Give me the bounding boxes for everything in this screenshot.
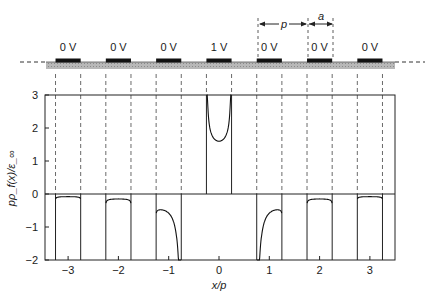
electrode — [106, 59, 131, 63]
x-tick-label: 0 — [216, 264, 222, 276]
y-tick-label: 3 — [32, 89, 38, 101]
electrode-voltage-label: 0 V — [160, 41, 177, 53]
arrowhead-icon — [259, 22, 265, 27]
electrode-voltage-label: 0 V — [311, 41, 328, 53]
arrowhead-icon — [309, 22, 315, 27]
electrode-voltage-label: 0 V — [362, 41, 379, 53]
electrode — [56, 59, 81, 63]
x-axis-label: x/p — [211, 279, 227, 291]
y-tick-label: 0 — [32, 188, 38, 200]
electrode — [307, 59, 332, 63]
plot-frame — [45, 95, 395, 260]
arrowhead-icon — [301, 22, 307, 27]
arrowhead-icon — [327, 22, 333, 27]
substrate — [46, 62, 395, 69]
width-label: a — [318, 10, 324, 22]
charge-density-figure: 0 V0 V0 V1 V0 V0 V0 V p a 3210−1−2 −3−2−… — [0, 0, 430, 305]
density-curve — [257, 210, 282, 260]
x-tick-label: 2 — [317, 264, 323, 276]
density-curve — [307, 199, 332, 203]
x-tick-label: −2 — [112, 264, 125, 276]
electrode-voltage-label: 1 V — [211, 41, 228, 53]
strip-boundaries — [56, 95, 383, 260]
electrode — [156, 59, 181, 63]
y-tick-label: −2 — [25, 254, 38, 266]
electrode-array: 0 V0 V0 V1 V0 V0 V0 V — [20, 41, 425, 69]
electrode — [206, 59, 231, 63]
density-curve — [156, 210, 181, 260]
x-tick-label: −3 — [62, 264, 75, 276]
period-label: p — [280, 18, 287, 30]
curves — [56, 95, 383, 260]
electrode-voltage-label: 0 V — [261, 41, 278, 53]
electrode — [357, 59, 382, 63]
y-tick-label: 2 — [32, 122, 38, 134]
y-tick-label: −1 — [25, 221, 38, 233]
electrode-voltage-label: 0 V — [60, 41, 77, 53]
y-axis-label: pρ_f(x)/ε_∞ — [5, 150, 17, 207]
x-tick-label: −1 — [162, 264, 175, 276]
electrode — [257, 59, 282, 63]
x-tick-label: 3 — [367, 264, 373, 276]
density-curve — [358, 197, 383, 199]
x-tick-label: 1 — [266, 264, 272, 276]
density-curve — [56, 197, 81, 199]
density-curve — [106, 199, 131, 203]
electrode-voltage-label: 0 V — [110, 41, 127, 53]
density-curve — [207, 95, 232, 141]
electrode-edge-guides — [56, 74, 383, 194]
y-tick-label: 1 — [32, 155, 38, 167]
x-axis: −3−2−10123 — [62, 256, 373, 276]
